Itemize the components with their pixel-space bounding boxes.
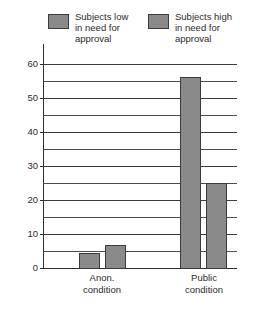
ytick-label-20: 20: [4, 195, 38, 205]
bar-public-high: [206, 183, 227, 269]
gridline-50: [43, 98, 237, 99]
ytick-mark-0: [40, 268, 44, 269]
ytick-label-50: 50: [4, 93, 38, 103]
plot-area: 60 50 40 30 20 10 0 Anon. condition Publ…: [0, 0, 263, 310]
ytick-mark-40: [40, 132, 44, 133]
bar-anon-low: [79, 253, 100, 269]
gridline-40: [43, 132, 237, 133]
ytick-mark-50: [40, 98, 44, 99]
ytick-label-30: 30: [4, 161, 38, 171]
ytick-label-0: 0: [4, 263, 38, 273]
xaxis-category-anon: Anon. condition: [52, 272, 152, 295]
bar-public-low: [180, 77, 201, 269]
ytick-label-40: 40: [4, 127, 38, 137]
gridline-55: [43, 81, 237, 82]
bar-anon-high: [105, 245, 126, 269]
gridline-60: [43, 64, 237, 65]
ytick-mark-10: [40, 234, 44, 235]
gridline-30: [43, 166, 237, 167]
bar-chart: Subjects low in need for approval Subjec…: [0, 0, 263, 310]
gridline-45: [43, 115, 237, 116]
ytick-mark-60: [40, 64, 44, 65]
ytick-mark-20: [40, 200, 44, 201]
xaxis-category-public: Public condition: [154, 272, 254, 295]
ytick-mark-30: [40, 166, 44, 167]
y-axis-line: [43, 44, 44, 269]
ytick-label-60: 60: [4, 59, 38, 69]
gridline-35: [43, 149, 237, 150]
ytick-label-10: 10: [4, 229, 38, 239]
